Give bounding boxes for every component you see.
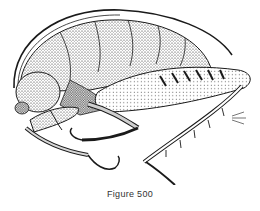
hind-tarsus: [146, 162, 175, 185]
middle-tibia: [82, 128, 138, 140]
eye: [15, 102, 29, 114]
figure-caption: Figure 500: [0, 189, 260, 199]
cricket-illustration: [0, 0, 260, 185]
front-tarsus: [88, 155, 119, 169]
